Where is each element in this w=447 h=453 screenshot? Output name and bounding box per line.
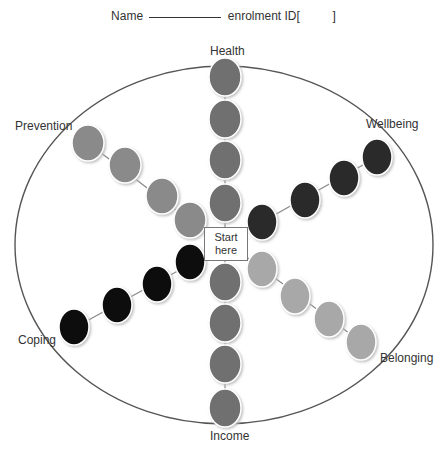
start-here-box: Start here [204, 227, 248, 261]
wellbeing-step-4[interactable] [362, 139, 392, 175]
label-health: Health [210, 44, 245, 58]
belonging-step-2[interactable] [280, 278, 310, 314]
health-step-4[interactable] [209, 58, 241, 96]
health-step-2[interactable] [209, 141, 241, 179]
label-wellbeing: Wellbeing [366, 117, 418, 131]
income-step-1[interactable] [209, 263, 241, 301]
label-prevention: Prevention [15, 119, 72, 133]
coping-step-3[interactable] [102, 287, 132, 323]
prevention-step-2[interactable] [146, 178, 178, 214]
spoke-income [209, 263, 241, 427]
wellbeing-step-1[interactable] [247, 204, 277, 240]
wellbeing-step-2[interactable] [290, 182, 320, 218]
start-label-line2: here [205, 244, 247, 257]
label-belonging: Belonging [380, 351, 433, 365]
coping-step-4[interactable] [59, 309, 89, 345]
wellbeing-step-3[interactable] [329, 160, 359, 196]
label-coping: Coping [18, 333, 56, 347]
income-step-4[interactable] [209, 389, 241, 427]
spoke-coping [59, 244, 205, 345]
belonging-step-1[interactable] [247, 251, 277, 287]
income-step-2[interactable] [209, 304, 241, 342]
belonging-step-3[interactable] [314, 301, 344, 337]
income-step-3[interactable] [209, 345, 241, 383]
belonging-step-4[interactable] [346, 324, 376, 360]
label-income: Income [210, 429, 249, 443]
health-step-3[interactable] [209, 100, 241, 138]
health-step-1[interactable] [209, 184, 241, 222]
start-label-line1: Start [205, 231, 247, 244]
prevention-step-3[interactable] [109, 147, 141, 183]
prevention-step-1[interactable] [174, 202, 206, 238]
coping-step-1[interactable] [175, 244, 205, 280]
coping-step-2[interactable] [142, 266, 172, 302]
prevention-step-4[interactable] [72, 125, 104, 161]
